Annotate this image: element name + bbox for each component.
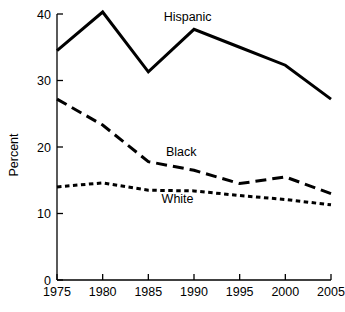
x-tick-label: 2000: [271, 285, 299, 299]
series-label-white: White: [162, 192, 194, 206]
x-axis-tick-labels: 1975198019851990199520002005: [43, 285, 345, 299]
series-lines: [57, 12, 331, 205]
series-annotations: HispanicBlackWhite: [162, 10, 212, 206]
series-line-hispanic: [57, 12, 331, 99]
x-tick-label: 2005: [317, 285, 345, 299]
series-label-black: Black: [166, 145, 197, 159]
line-chart: 010203040 1975198019851990199520002005 P…: [0, 0, 345, 312]
x-tick-label: 1980: [89, 285, 117, 299]
y-axis-ticks: [57, 14, 63, 280]
x-tick-label: 1990: [180, 285, 208, 299]
series-line-white: [57, 183, 331, 205]
x-tick-label: 1975: [43, 285, 71, 299]
x-axis-ticks: [57, 274, 331, 280]
y-tick-label: 10: [37, 207, 51, 221]
series-label-hispanic: Hispanic: [164, 10, 212, 24]
x-tick-label: 1985: [134, 285, 162, 299]
y-tick-label: 20: [37, 141, 51, 155]
y-tick-label: 30: [37, 74, 51, 88]
y-tick-label: 40: [37, 8, 51, 22]
y-axis-title: Percent: [7, 133, 21, 177]
y-axis-tick-labels: 010203040: [37, 8, 51, 288]
chart-svg: 010203040 1975198019851990199520002005 P…: [0, 0, 345, 312]
x-tick-label: 1995: [226, 285, 254, 299]
